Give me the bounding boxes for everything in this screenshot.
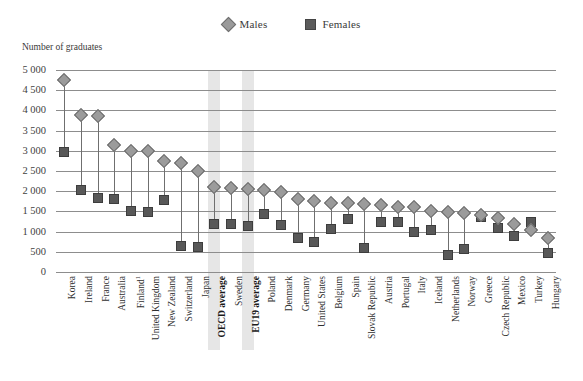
connector-stem: [181, 163, 182, 246]
data-point-male: [224, 181, 238, 195]
y-axis-tick-label: 0: [0, 267, 46, 278]
connector-stem: [98, 116, 99, 197]
connector-stem: [131, 151, 132, 211]
data-point-male: [157, 154, 171, 168]
data-point-male: [307, 194, 321, 208]
x-axis-category-label: Sweden: [235, 276, 245, 306]
data-point-female: [159, 195, 169, 205]
data-point-female: [326, 224, 336, 234]
x-axis-category-label: United States: [318, 276, 328, 327]
x-axis-category-label: Belgium: [335, 276, 345, 309]
data-point-male: [174, 156, 188, 170]
data-point-female: [209, 219, 219, 229]
gridline: [56, 110, 556, 111]
gridline: [56, 90, 556, 91]
x-axis-category-labels: KoreaIrelandFranceAustraliaFinland1Unite…: [56, 276, 556, 381]
footnote-marker: 1: [134, 276, 141, 279]
x-axis-category-label: Norway: [468, 276, 478, 307]
data-point-male: [357, 197, 371, 211]
connector-stem: [64, 80, 65, 152]
data-point-female: [93, 193, 103, 203]
x-axis-category-label: Australia: [118, 276, 128, 311]
x-axis-category-label: Italy: [418, 276, 428, 293]
y-axis-title: Number of graduates: [22, 42, 102, 52]
x-axis-category-label: Greece: [485, 276, 495, 303]
data-point-female: [276, 220, 286, 230]
data-point-female: [243, 221, 253, 231]
legend-label-males: Males: [240, 18, 268, 30]
x-axis-category-label: Spain: [352, 276, 362, 298]
data-point-female: [76, 185, 86, 195]
data-point-male: [241, 182, 255, 196]
data-point-female: [109, 194, 119, 204]
x-axis-category-label: Japan: [202, 276, 212, 298]
data-point-male: [124, 144, 138, 158]
legend-item-females: Females: [305, 18, 360, 30]
x-axis-category-label: Turkey: [535, 276, 545, 303]
legend-item-males: Males: [223, 18, 268, 30]
data-point-male: [541, 231, 555, 245]
data-point-female: [259, 209, 269, 219]
data-point-male: [257, 183, 271, 197]
y-axis-tick-label: 1 500: [0, 206, 46, 217]
data-point-female: [359, 243, 369, 253]
legend-label-females: Females: [322, 18, 360, 30]
gridline: [56, 232, 556, 233]
data-point-female: [409, 227, 419, 237]
y-axis-tick-labels: 5 0004 5004 0003 5003 0002 5002 0001 500…: [0, 70, 50, 272]
gridline: [56, 70, 556, 71]
chart-legend: Males Females: [0, 18, 583, 30]
x-axis-category-label: Germany: [302, 276, 312, 311]
x-axis-category-label: EU19 average: [252, 276, 262, 333]
gridline: [56, 272, 556, 273]
data-point-male: [291, 192, 305, 206]
data-point-female: [393, 217, 403, 227]
connector-stem: [114, 145, 115, 200]
data-point-female: [226, 219, 236, 229]
data-point-female: [343, 214, 353, 224]
gridline: [56, 252, 556, 253]
connector-stem: [81, 115, 82, 190]
data-point-female: [193, 242, 203, 252]
data-point-male: [457, 206, 471, 220]
x-axis-category-label: Mexico: [518, 276, 528, 305]
y-axis-tick-label: 3 500: [0, 126, 46, 137]
data-point-male: [374, 198, 388, 212]
data-point-female: [426, 225, 436, 235]
data-point-female: [459, 244, 469, 254]
data-point-male: [507, 217, 521, 231]
data-point-female: [509, 231, 519, 241]
data-point-male: [107, 138, 121, 152]
data-point-female: [59, 147, 69, 157]
gridline: [56, 131, 556, 132]
y-axis-tick-label: 2 500: [0, 166, 46, 177]
diamond-marker-icon: [220, 16, 236, 32]
data-point-female: [309, 237, 319, 247]
data-point-female: [143, 207, 153, 217]
data-point-female: [293, 233, 303, 243]
y-axis-tick-label: 4 000: [0, 105, 46, 116]
y-axis-tick-label: 500: [0, 247, 46, 258]
data-point-female: [543, 248, 553, 258]
x-axis-category-label: Finland1: [135, 276, 147, 308]
connector-stem: [148, 151, 149, 212]
chart-container: Males Females Number of graduates 5 0004…: [0, 0, 583, 381]
y-axis-tick-label: 5 000: [0, 65, 46, 76]
x-axis-category-label: Portugal: [402, 276, 412, 308]
data-point-male: [191, 164, 205, 178]
data-point-female: [376, 217, 386, 227]
data-point-male: [441, 205, 455, 219]
data-point-male: [57, 73, 71, 87]
plot-area: [56, 70, 556, 272]
connector-stem: [198, 171, 199, 247]
data-point-male: [274, 185, 288, 199]
x-axis-category-label: Ireland: [85, 276, 95, 303]
x-axis-category-label: Korea: [68, 276, 78, 299]
data-point-male: [91, 109, 105, 123]
x-axis-category-label: Denmark: [285, 276, 295, 311]
x-axis-category-label: Slovak Republic: [368, 276, 378, 339]
data-point-male: [424, 204, 438, 218]
y-axis-tick-label: 1 000: [0, 227, 46, 238]
y-axis-tick-label: 3 000: [0, 146, 46, 157]
data-point-female: [176, 241, 186, 251]
